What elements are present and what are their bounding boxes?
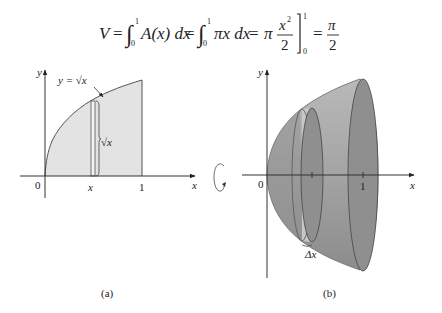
x-axis-label-a: x [191, 179, 197, 191]
delta-x-label: Δx [304, 248, 316, 260]
origin-label-b: 0 [258, 178, 264, 190]
one-label-a: 1 [139, 181, 145, 193]
figure: y x 0 x 1 y = √x √x (a) y x 0 1 Δx [0, 0, 442, 313]
caption-b: (b) [323, 287, 336, 300]
panel-b: y x 0 1 Δx (b) [242, 66, 415, 300]
origin-label-a: 0 [35, 179, 41, 191]
curve-label-arrow [94, 87, 103, 97]
rotation-arrow-icon [214, 164, 226, 191]
strip-rectangle [91, 101, 95, 176]
panel-a: y x 0 x 1 y = √x √x (a) [20, 66, 197, 300]
curve-label: y = √x [57, 74, 87, 86]
y-axis-label-b: y [257, 66, 263, 78]
y-axis-label-a: y [36, 66, 42, 78]
one-label-b: 1 [360, 180, 366, 192]
x-tick-label-a: x [87, 181, 93, 193]
caption-a: (a) [101, 287, 114, 300]
x-axis-label-b: x [409, 179, 415, 191]
strip-height-label: √x [101, 136, 112, 148]
